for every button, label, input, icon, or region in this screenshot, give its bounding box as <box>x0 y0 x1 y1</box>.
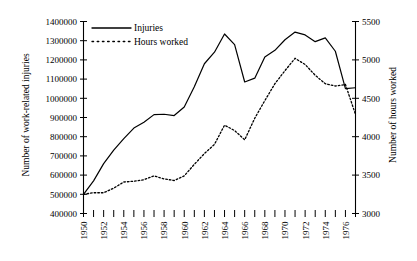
y-axis-left-tick-label: 800000 <box>50 132 78 142</box>
y-axis-left-tick-label: 900000 <box>50 113 78 123</box>
x-axis-tick-label: 1958 <box>159 221 169 240</box>
y-axis-left-tick-label: 700000 <box>50 151 78 161</box>
y-axis-right-tick-label: 3000 <box>362 209 381 219</box>
y-axis-left-tick-label: 1300000 <box>46 36 78 46</box>
y-axis-left-tick-label: 1400000 <box>46 17 78 27</box>
x-axis-tick-label: 1970 <box>280 221 290 240</box>
chart-legend: InjuriesHours worked <box>92 23 188 47</box>
y-axis-left-tick-label: 1000000 <box>46 94 78 104</box>
legend-label: Hours worked <box>134 37 188 47</box>
x-axis-tick-label: 1960 <box>180 221 190 240</box>
y-axis-left-tick-label: 500000 <box>50 190 78 200</box>
x-axis-tick-label: 1950 <box>79 221 89 240</box>
y-axis-left-tick-label: 600000 <box>50 170 78 180</box>
x-axis-tick-label: 1964 <box>220 221 230 240</box>
x-axis-tick-label: 1974 <box>321 221 331 240</box>
y-axis-left-tick-label: 400000 <box>50 209 78 219</box>
x-axis-tick-label: 1976 <box>341 221 351 240</box>
y-axis-left-tick-label: 1100000 <box>46 74 78 84</box>
series-line-injuries <box>84 32 356 194</box>
x-axis-tick-label: 1968 <box>260 221 270 240</box>
x-axis-tick-label: 1972 <box>301 222 311 240</box>
x-axis-tick-label: 1954 <box>119 221 129 240</box>
chart-plot-area: 4000005000006000007000008000009000001000… <box>0 0 417 261</box>
y-axis-right-tick-label: 4000 <box>362 132 381 142</box>
y-axis-right-tick-label: 3500 <box>362 170 381 180</box>
x-axis-tick-label: 1952 <box>99 222 109 240</box>
x-axis-tick-label: 1966 <box>240 221 250 240</box>
x-axis-tick-label: 1956 <box>139 221 149 240</box>
y-axis-left-ticks: 4000005000006000007000008000009000001000… <box>46 17 88 219</box>
x-axis-tick-label: 1962 <box>200 222 210 240</box>
y-axis-right-tick-label: 5000 <box>362 55 381 65</box>
x-axis-ticks: 1950195219541956195819601962196419661968… <box>79 210 356 240</box>
y-axis-right-tick-label: 4500 <box>362 94 381 104</box>
series-line-hours <box>84 58 356 194</box>
legend-label: Injuries <box>134 23 163 33</box>
y-axis-right-ticks: 300035004000450050005500 <box>352 17 381 219</box>
chart-figure: Number of work-related injuries Number o… <box>0 0 417 261</box>
y-axis-left-tick-label: 1200000 <box>46 55 78 65</box>
y-axis-right-tick-label: 5500 <box>362 17 381 27</box>
